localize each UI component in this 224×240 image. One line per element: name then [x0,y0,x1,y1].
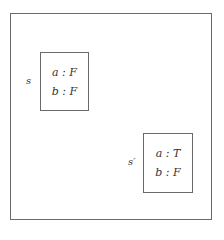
state-label-s-prime: s′ [128,156,135,167]
state-box-s: a : F b : F [40,52,89,111]
assignment-b: b : F [52,82,77,101]
state-label-s: s [26,75,31,86]
assignment-b: b : F [155,163,180,182]
assignment-a: a : T [156,144,181,163]
assignment-a: a : F [52,63,77,82]
state-box-s-prime: a : T b : F [143,133,193,193]
